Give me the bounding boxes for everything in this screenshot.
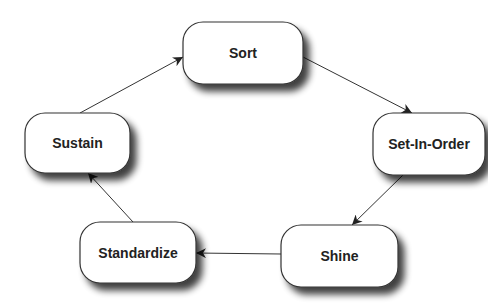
five-s-cycle-diagram: SortSet-In-OrderShineStandardizeSustain <box>0 0 488 306</box>
edge-set-in-order-to-shine <box>352 175 403 225</box>
node-label: Shine <box>320 248 358 264</box>
node-shine: Shine <box>281 225 398 287</box>
node-label: Sustain <box>52 135 103 151</box>
node-label: Sort <box>229 45 257 61</box>
edge-shine-to-standardize <box>196 253 281 254</box>
edge-sort-to-set-in-order <box>303 57 412 113</box>
node-sustain: Sustain <box>25 113 130 173</box>
node-set-in-order: Set-In-Order <box>373 113 485 175</box>
edge-sustain-to-sort <box>80 57 183 113</box>
edge-standardize-to-sustain <box>88 173 133 222</box>
node-label: Standardize <box>98 245 178 261</box>
node-label: Set-In-Order <box>388 136 470 152</box>
node-sort: Sort <box>183 22 303 84</box>
node-standardize: Standardize <box>80 222 196 283</box>
